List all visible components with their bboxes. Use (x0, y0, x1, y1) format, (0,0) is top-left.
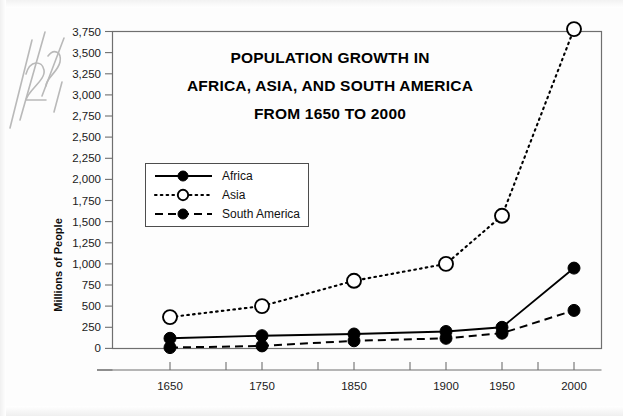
population-growth-line-chart: 3,750 3,500 3,250 3,000 2,750 2,500 2,25… (0, 0, 623, 416)
data-point-africa-1850 (348, 328, 360, 340)
data-point-asia-2000 (567, 22, 581, 36)
x-tick-label: 1650 (157, 380, 183, 392)
legend-swatch-marker-africa (178, 171, 188, 181)
series-line-south-america (170, 310, 574, 347)
y-tick-label: 2,250 (72, 152, 101, 164)
data-point-africa-1950 (496, 321, 508, 333)
legend-swatch-marker-south-america (178, 209, 188, 219)
data-point-africa-1750 (256, 330, 268, 342)
y-tick-label: 1,750 (72, 195, 101, 207)
y-tick-label: 3,000 (72, 89, 101, 101)
data-point-asia-1900 (439, 257, 453, 271)
y-tick-label: 3,750 (72, 26, 101, 38)
data-point-asia-1850 (347, 274, 361, 288)
y-tick-label: 1,250 (72, 237, 101, 249)
series-south-america (164, 304, 580, 353)
chart-legend: Africa Asia South America (146, 164, 309, 227)
y-axis-title: Millions of People (52, 218, 64, 312)
x-axis (97, 362, 602, 370)
y-tick-label: 1,000 (72, 258, 101, 270)
data-point-africa-2000 (568, 262, 580, 274)
y-tick-label: 2,000 (72, 173, 101, 185)
chart-title-line-2: AFRICA, ASIA, AND SOUTH AMERICA (187, 77, 473, 94)
data-point-asia-1950 (495, 209, 509, 223)
legend-label-south-america: South America (222, 207, 300, 221)
data-point-africa-1650 (164, 332, 176, 344)
series-africa (164, 262, 580, 344)
x-axis-tick-labels: 1650 1750 1850 1900 1950 2000 (157, 380, 587, 392)
data-point-africa-1900 (440, 326, 452, 338)
chart-title: POPULATION GROWTH IN AFRICA, ASIA, AND S… (187, 49, 473, 122)
series-line-africa (170, 268, 574, 338)
data-point-south-america-2000 (568, 304, 580, 316)
y-tick-label: 1,500 (72, 216, 101, 228)
y-tick-label: 0 (95, 342, 101, 354)
y-tick-label: 750 (82, 279, 101, 291)
x-tick-label: 1900 (433, 380, 459, 392)
chart-title-line-3: FROM 1650 TO 2000 (254, 105, 406, 122)
legend-swatch-marker-asia (178, 190, 188, 200)
y-tick-label: 250 (82, 321, 101, 333)
y-axis-tick-labels: 3,750 3,500 3,250 3,000 2,750 2,500 2,25… (72, 26, 101, 355)
legend-label-africa: Africa (222, 169, 253, 183)
data-point-asia-1650 (163, 310, 177, 324)
scanned-page: 3,750 3,500 3,250 3,000 2,750 2,500 2,25… (0, 0, 623, 416)
x-tick-label: 1750 (249, 380, 275, 392)
y-tick-label: 3,250 (72, 68, 101, 80)
y-tick-label: 2,750 (72, 110, 101, 122)
legend-label-asia: Asia (222, 188, 246, 202)
x-tick-label: 2000 (561, 380, 587, 392)
y-tick-label: 3,500 (72, 47, 101, 59)
data-point-asia-1750 (255, 299, 269, 313)
chart-title-line-1: POPULATION GROWTH IN (230, 49, 429, 66)
y-tick-label: 2,500 (72, 131, 101, 143)
x-tick-label: 1950 (489, 380, 515, 392)
x-tick-label: 1850 (341, 380, 367, 392)
y-tick-label: 500 (82, 300, 101, 312)
